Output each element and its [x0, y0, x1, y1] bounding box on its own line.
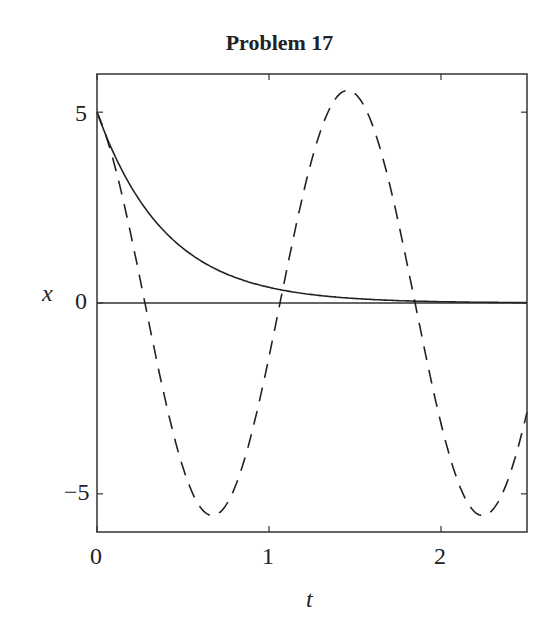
series-solid-line	[97, 112, 527, 302]
x-tick-2: 2	[434, 543, 446, 570]
chart-title: Problem 17	[0, 30, 559, 56]
y-tick-5: 5	[75, 100, 87, 127]
x-tick-0: 0	[90, 543, 102, 570]
x-axis-label: t	[306, 586, 313, 613]
y-axis-label: x	[42, 280, 53, 307]
y-tick-neg5: −5	[64, 479, 90, 506]
y-tick-0: 0	[75, 288, 87, 315]
plot-area	[0, 0, 559, 634]
x-tick-1: 1	[262, 543, 274, 570]
